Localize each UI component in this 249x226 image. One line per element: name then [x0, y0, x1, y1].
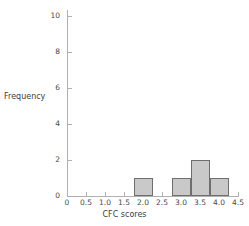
y-axis-line	[67, 10, 68, 196]
histogram-bar	[191, 160, 210, 196]
histogram-bar	[172, 178, 191, 196]
histogram-bar	[134, 178, 153, 196]
y-tick-label: 8	[30, 48, 60, 56]
y-tick-mark	[68, 124, 72, 125]
y-tick-label: 10	[30, 12, 60, 20]
y-tick-mark	[68, 160, 72, 161]
y-tick-mark	[68, 88, 72, 89]
x-tick-mark	[67, 192, 68, 196]
y-tick-mark	[68, 196, 72, 197]
histogram-figure: 0246810 00.51.01.52.02.53.03.54.04.5 Fre…	[0, 0, 249, 226]
histogram-bar	[210, 178, 229, 196]
y-tick-label: 4	[30, 120, 60, 128]
x-tick-mark	[162, 192, 163, 196]
x-tick-mark	[105, 192, 106, 196]
x-axis-line	[67, 196, 239, 197]
x-axis-label: CFC scores	[0, 210, 249, 219]
x-tick-mark	[124, 192, 125, 196]
x-tick-mark	[86, 192, 87, 196]
x-tick-label: 4.5	[225, 198, 249, 207]
y-axis-label: Frequency	[4, 92, 45, 101]
x-tick-mark	[238, 192, 239, 196]
y-tick-label: 2	[30, 156, 60, 164]
y-tick-mark	[68, 16, 72, 17]
y-tick-mark	[68, 52, 72, 53]
y-tick-label: 6	[30, 84, 60, 92]
